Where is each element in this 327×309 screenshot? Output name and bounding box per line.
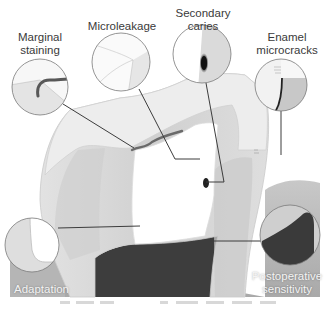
label-line: Marginal <box>4 31 76 44</box>
label-postoperative-sensitivity: Postoperative sensitivity <box>248 270 326 296</box>
label-marginal-staining: Marginal staining <box>4 31 76 57</box>
label-secondary-caries: Secondary caries <box>170 7 236 33</box>
tooth-diagram: Marginal staining Microleakage Secondary… <box>0 0 327 309</box>
label-line: Enamel <box>251 31 323 44</box>
label-line: Microleakage <box>82 20 162 33</box>
label-line: caries <box>170 20 236 33</box>
caries-spot <box>203 178 209 188</box>
callout-microleakage-circle <box>92 33 150 95</box>
label-line: staining <box>4 44 76 57</box>
label-enamel-microcracks: Enamel microcracks <box>251 31 323 57</box>
footer-ghost-text <box>60 301 276 304</box>
label-microleakage: Microleakage <box>82 20 162 33</box>
label-line: Adaptation <box>14 283 74 296</box>
label-line: Secondary <box>170 7 236 20</box>
callout-marginal-staining-circle <box>10 59 75 120</box>
label-line: sensitivity <box>248 283 326 296</box>
label-line: Postoperative <box>248 270 326 283</box>
callout-postoperative-sensitivity-circle <box>260 205 320 266</box>
label-line: microcracks <box>251 44 323 57</box>
label-adaptation: Adaptation <box>14 283 74 296</box>
